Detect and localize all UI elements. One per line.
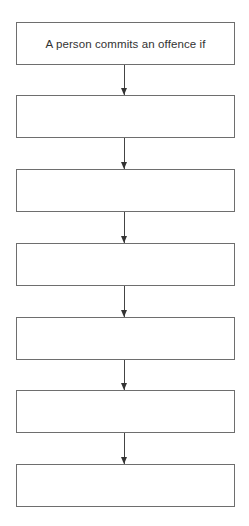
flow-box-7 [16,464,235,507]
flow-box-3 [16,169,235,212]
flow-box-5 [16,317,235,360]
flow-box-6 [16,390,235,433]
flow-box-label: A person commits an offence if [45,38,205,50]
flow-box-1: A person commits an offence if [16,22,235,65]
down-arrow-icon [124,212,125,243]
flow-box-2 [16,95,235,138]
down-arrow-icon [124,138,125,169]
down-arrow-icon [124,360,125,390]
down-arrow-icon [124,65,125,95]
down-arrow-icon [124,433,125,464]
down-arrow-icon [124,286,125,317]
flow-box-4 [16,243,235,286]
